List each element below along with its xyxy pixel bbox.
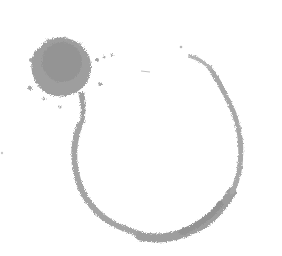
- stain-illustration: [0, 0, 282, 256]
- splatter-blob: [28, 37, 114, 125]
- ink-specks: [1, 46, 183, 155]
- stain-svg: [0, 0, 282, 256]
